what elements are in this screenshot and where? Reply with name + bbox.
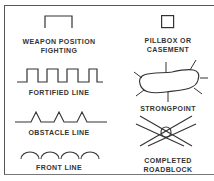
weapon-position-label: WEAPON POSITION FIGHTING <box>14 37 104 55</box>
front-line-icon <box>20 150 100 160</box>
weapon-position-icon <box>44 15 74 29</box>
strongpoint-icon <box>130 58 210 104</box>
fortified-line-icon <box>17 68 103 84</box>
front-line-label: FRONT LINE <box>14 163 104 172</box>
pillbox-label: PILLBOX OR CASEMENT <box>123 36 213 54</box>
completed-roadblock-label: COMPLETED ROADBLOCK <box>123 156 213 174</box>
obstacle-line-label: OBSTACLE LINE <box>14 128 104 137</box>
completed-roadblock-icon <box>136 114 196 148</box>
pillbox-icon <box>161 15 175 29</box>
obstacle-line-icon <box>15 110 107 124</box>
fortified-line-label: FORTIFIED LINE <box>14 88 104 97</box>
strongpoint-label: STRONGPOINT <box>123 104 213 113</box>
